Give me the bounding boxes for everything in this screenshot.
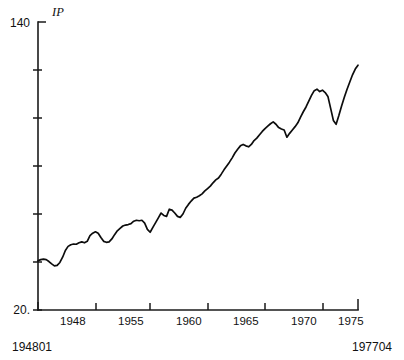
x-tick-label-1975: 1975 (338, 315, 364, 327)
chart-figure: 140 20. 1948 1955 1960 1965 1970 1975 19… (0, 0, 404, 360)
x-tick-label-1960: 1960 (176, 315, 202, 327)
x-tick-label-1948: 1948 (60, 315, 86, 327)
axes-group (33, 22, 358, 310)
x-axis-start-range-label: 194801 (12, 340, 52, 354)
x-tick-labels: 1948 1955 1960 1965 1970 1975 (60, 315, 364, 327)
x-tick-label-1965: 1965 (233, 315, 259, 327)
y-tick-labels: 140 20. (10, 16, 30, 317)
x-axis-end-range-label: 197704 (352, 340, 392, 354)
ip-series-line (38, 65, 358, 266)
series-label-ip: IP (51, 5, 64, 19)
y-axis-max-label: 140 (10, 16, 30, 30)
x-tick-label-1970: 1970 (291, 315, 317, 327)
y-axis-min-label: 20. (13, 303, 30, 317)
x-tick-label-1955: 1955 (118, 315, 144, 327)
industrial-production-line-chart: 140 20. 1948 1955 1960 1965 1970 1975 19… (0, 0, 404, 360)
